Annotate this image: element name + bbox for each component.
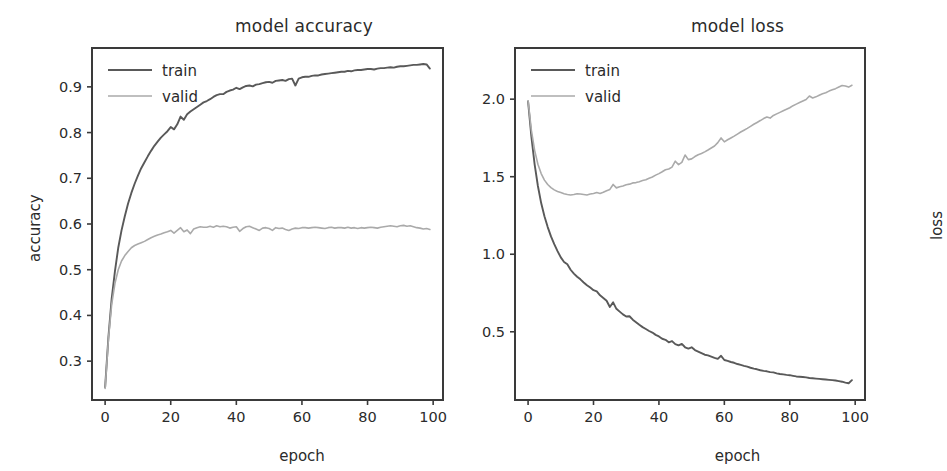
x-tick-label: 100 xyxy=(841,409,869,425)
x-tick-label: 20 xyxy=(584,409,602,425)
series-line-valid xyxy=(528,85,852,195)
y-tick-label: 0.7 xyxy=(59,170,82,186)
series-line-valid xyxy=(105,225,430,388)
x-tick-label: 60 xyxy=(293,409,311,425)
y-tick-label: 2.0 xyxy=(482,91,505,107)
x-tick-label: 80 xyxy=(358,409,376,425)
legend-label-valid: valid xyxy=(162,88,198,106)
x-tick-label: 0 xyxy=(101,409,110,425)
y-tick-label: 0.9 xyxy=(59,79,82,95)
x-tick-label: 40 xyxy=(650,409,668,425)
y-tick-label: 1.0 xyxy=(482,246,505,262)
y-axis-label-loss: loss xyxy=(928,211,946,240)
chart-panel-accuracy: model accuracy 0.30.40.50.60.70.80.90204… xyxy=(0,0,452,471)
y-tick-label: 0.5 xyxy=(59,262,82,278)
legend-label-train: train xyxy=(162,62,197,80)
x-tick-label: 100 xyxy=(419,409,447,425)
y-tick-label: 0.3 xyxy=(59,353,82,369)
plot-area-loss: 0.51.01.52.0020406080100trainvalid xyxy=(452,0,903,471)
y-tick-label: 0.4 xyxy=(59,307,82,323)
x-tick-label: 80 xyxy=(781,409,799,425)
chart-panel-loss: model loss 0.51.01.52.0020406080100train… xyxy=(452,0,903,471)
x-tick-label: 60 xyxy=(715,409,733,425)
x-tick-label: 0 xyxy=(523,409,532,425)
x-tick-label: 20 xyxy=(162,409,180,425)
x-axis-label-accuracy: epoch xyxy=(0,447,528,465)
series-line-train xyxy=(105,64,430,387)
y-axis-label-accuracy: accuracy xyxy=(26,194,44,262)
y-tick-label: 1.5 xyxy=(482,169,505,185)
plot-area-accuracy: 0.30.40.50.60.70.80.9020406080100trainva… xyxy=(0,0,452,471)
y-tick-label: 0.8 xyxy=(59,125,82,141)
x-axis-label-loss: epoch xyxy=(452,447,947,465)
y-tick-label: 0.6 xyxy=(59,216,82,232)
legend-label-train: train xyxy=(585,62,620,80)
y-tick-label: 0.5 xyxy=(482,324,505,340)
series-line-train xyxy=(528,102,852,384)
legend-label-valid: valid xyxy=(585,88,621,106)
x-tick-label: 40 xyxy=(227,409,245,425)
